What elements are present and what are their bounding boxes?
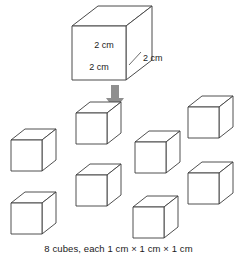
small-cube-4 xyxy=(135,131,180,173)
small-cube-7 xyxy=(11,192,56,234)
small-cube-8 xyxy=(133,196,178,238)
figure-caption: 8 cubes, each 1 cm × 1 cm × 1 cm xyxy=(0,243,237,254)
label-front-height: 2 cm xyxy=(94,40,114,50)
label-side-depth: 2 cm xyxy=(143,53,163,63)
label-front-width: 2 cm xyxy=(89,62,109,72)
small-cube-3 xyxy=(188,96,233,138)
figure-canvas: 2 cm 2 cm 2 cm xyxy=(0,0,237,257)
small-cube-2 xyxy=(76,102,121,144)
small-cube-group xyxy=(11,96,233,238)
small-cube-1 xyxy=(11,129,56,171)
small-cube-6 xyxy=(188,162,233,204)
volume-decomposition-figure: 2 cm 2 cm 2 cm 8 cubes, each 1 cm × 1 cm… xyxy=(0,0,237,257)
small-cube-5 xyxy=(76,164,121,206)
